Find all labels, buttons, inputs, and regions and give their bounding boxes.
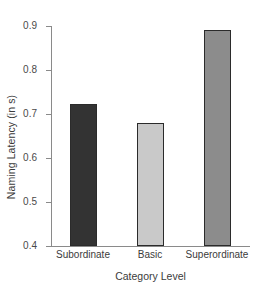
y-axis-tick-label: 0.8 [23,65,37,75]
y-axis-title: Naming Latency (in s) [0,0,22,294]
y-axis-line [51,26,52,246]
y-axis-tick: 0.5 [46,202,52,203]
y-axis-tick: 0.6 [46,158,52,159]
y-axis-tick-label: 0.5 [23,197,37,207]
x-axis-tick-label: Superordinate [186,250,249,260]
plot-area: 0.40.50.60.70.80.9 SubordinateBasicSuper… [51,26,250,246]
y-axis-tick: 0.7 [46,114,52,115]
y-axis-tick: 0.9 [46,26,52,27]
x-axis-tick-label: Subordinate [56,250,110,260]
y-axis-tick: 0.8 [46,70,52,71]
x-axis-line [51,246,250,247]
y-axis-tick-label: 0.9 [23,21,37,31]
y-axis-tick-label: 0.6 [23,153,37,163]
x-axis-tick-label: Basic [138,250,162,260]
y-axis-tick-label: 0.7 [23,109,37,119]
x-axis-title: Category Level [51,270,250,282]
bar [70,104,97,246]
y-axis-tick-label: 0.4 [23,241,37,251]
bar [137,123,164,246]
y-axis-tick: 0.4 [46,246,52,247]
bar-chart-figure: Naming Latency (in s) 0.40.50.60.70.80.9… [0,0,261,294]
bar [204,30,231,246]
